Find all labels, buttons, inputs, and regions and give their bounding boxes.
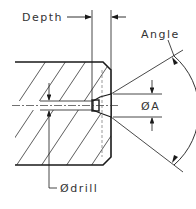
angle-arc bbox=[174, 56, 196, 165]
drill-diagram: Depth Angle ØA Ødrill bbox=[0, 0, 196, 209]
depth-label: Depth bbox=[22, 11, 63, 24]
diameter-a-label: ØA bbox=[141, 100, 160, 113]
part-outline bbox=[15, 62, 111, 165]
angle-label: Angle bbox=[141, 28, 180, 41]
diameter-drill-label: Ødrill bbox=[60, 182, 98, 195]
